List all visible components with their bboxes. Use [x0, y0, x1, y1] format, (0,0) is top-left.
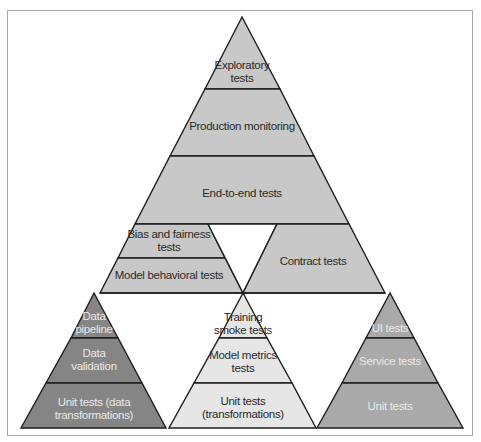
label-line: tests — [209, 362, 277, 375]
label-exploratory-tests: Exploratory tests — [215, 59, 270, 85]
label-line: Bias and fairness — [127, 228, 210, 241]
label-line: Unit tests — [202, 395, 284, 408]
label-end-to-end-tests: End-to-end tests — [202, 187, 282, 200]
label-training-smoke-tests: Training smoke tests — [214, 311, 272, 337]
label-line: Data — [71, 347, 117, 360]
label-production-monitoring: Production monitoring — [189, 120, 295, 133]
label-line: Unit tests (data — [55, 396, 133, 409]
label-line: tests — [215, 72, 270, 85]
label-line: pipeline — [75, 323, 112, 336]
label-line: (transformations) — [202, 408, 284, 421]
label-unit-tests-transformations: Unit tests (transformations) — [202, 395, 284, 421]
label-line: Data — [75, 310, 112, 323]
label-line: Training — [214, 311, 272, 324]
label-data-pipeline: Data pipeline — [75, 310, 112, 336]
label-line: Model metrics — [209, 349, 277, 362]
label-line: validation — [71, 360, 117, 373]
label-line: Exploratory — [215, 59, 270, 72]
label-model-behavioral-tests: Model behavioral tests — [115, 269, 223, 282]
label-contract-tests: Contract tests — [280, 255, 347, 268]
label-unit-tests-data: Unit tests (data transformations) — [55, 396, 133, 422]
label-line: tests — [127, 241, 210, 254]
label-ui-tests: UI tests — [372, 322, 409, 335]
label-bias-fairness-tests: Bias and fairness tests — [127, 228, 210, 254]
label-data-validation: Data validation — [71, 347, 117, 373]
label-line: smoke tests — [214, 324, 272, 337]
label-unit-tests: Unit tests — [368, 400, 413, 413]
label-service-tests: Service tests — [359, 355, 421, 368]
label-model-metrics-tests: Model metrics tests — [209, 349, 277, 375]
label-line: transformations) — [55, 409, 133, 422]
